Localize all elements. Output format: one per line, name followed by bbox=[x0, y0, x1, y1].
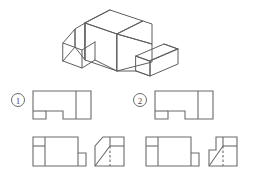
technical-drawing-canvas: 1 bbox=[0, 0, 253, 177]
option-1-number: 1 bbox=[16, 96, 21, 106]
drawing-sheet: 1 bbox=[0, 0, 253, 177]
option-2-number: 2 bbox=[138, 96, 143, 106]
